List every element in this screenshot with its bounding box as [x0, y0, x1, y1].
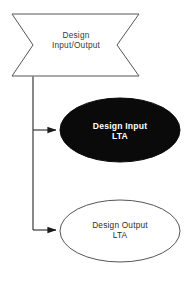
flowchart-diagram: Design Input/Output Design Input LTA Des…	[0, 0, 191, 283]
node-design-input-lta-label: Design Input LTA	[62, 121, 178, 141]
node-design-output-lta-label: Design Output LTA	[62, 221, 178, 241]
node-design-io-label: Design Input/Output	[36, 31, 116, 51]
